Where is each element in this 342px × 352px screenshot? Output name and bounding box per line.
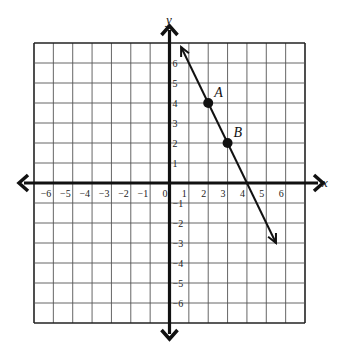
y-tick-label: 1 [173,158,178,169]
y-tick-label: 3 [173,118,178,129]
point-b [223,138,233,148]
x-tick-label: 4 [240,188,245,199]
x-axis-label: x [321,175,328,190]
point-label-a: A [213,85,223,100]
y-tick-label: −4 [173,258,184,269]
axes [19,26,323,339]
line-series: AB [181,47,276,243]
x-tick-label: 6 [279,188,284,199]
y-tick-label: −2 [173,218,184,229]
coordinate-plane: −6−5−4−3−2−10123456654321−1−2−3−4−5−6 AB… [0,0,342,352]
y-tick-label: 5 [173,78,178,89]
x-tick-label: −3 [99,188,110,199]
point-a [203,98,213,108]
x-tick-label: −2 [118,188,129,199]
point-label-b: B [234,125,243,140]
y-tick-label: −1 [173,198,184,209]
y-tick-label: 2 [173,138,178,149]
x-tick-label: −5 [60,188,71,199]
x-tick-label: 3 [221,188,226,199]
y-tick-label: 4 [173,98,178,109]
x-tick-label: 2 [201,188,206,199]
y-tick-label: −3 [173,238,184,249]
y-tick-label: 6 [173,58,178,69]
x-tick-label: 0 [163,188,168,199]
y-tick-label: −5 [173,278,184,289]
y-axis-label: y [164,12,172,27]
y-tick-label: −6 [173,298,184,309]
x-tick-label: 5 [259,188,264,199]
x-tick-label: −6 [41,188,52,199]
x-tick-label: −4 [79,188,90,199]
x-tick-label: −1 [138,188,149,199]
